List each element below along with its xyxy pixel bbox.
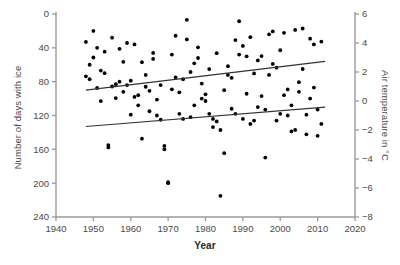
data-point: [267, 73, 271, 77]
x-axis-tick-label: 1980: [195, 223, 216, 234]
x-axis-tick-label: 1950: [83, 223, 104, 234]
data-point: [162, 147, 166, 151]
data-point: [144, 73, 148, 77]
data-point: [103, 71, 107, 75]
data-point: [312, 43, 316, 47]
data-point: [151, 51, 155, 55]
data-point: [256, 59, 260, 63]
data-point: [170, 53, 174, 57]
data-point: [99, 69, 103, 73]
y-axis-left-tick-label: 80: [38, 76, 49, 87]
data-point: [91, 56, 95, 60]
y-axis-left-tick-label: 120: [33, 110, 49, 121]
data-point: [88, 77, 92, 81]
data-point: [177, 90, 181, 94]
data-point: [226, 64, 230, 68]
data-point: [215, 120, 219, 124]
y-axis-right-tick-label: 4: [362, 37, 367, 48]
y-axis-left-title: Number of days with ice: [12, 43, 23, 193]
data-point: [260, 94, 264, 98]
y-axis-right-tick-label: 6: [362, 8, 367, 19]
data-point: [133, 95, 137, 99]
data-point: [140, 137, 144, 141]
data-point: [219, 128, 223, 132]
data-point: [297, 80, 301, 84]
y-axis-left-tick-label: 200: [33, 178, 49, 189]
data-point: [91, 29, 95, 33]
data-point: [222, 151, 226, 155]
data-point: [290, 103, 294, 107]
data-point: [308, 97, 312, 101]
data-point: [106, 146, 110, 150]
data-point: [293, 28, 297, 32]
data-point: [121, 90, 125, 94]
y-axis-left-tick-label: 0: [44, 8, 49, 19]
data-point: [144, 85, 148, 89]
air-temperature-trend: [86, 107, 325, 126]
y-axis-left-tick-label: 240: [33, 211, 49, 222]
data-point: [196, 56, 200, 60]
data-point: [271, 30, 275, 34]
y-axis-right-tick-label: −4: [362, 153, 373, 164]
data-point: [263, 156, 267, 160]
data-point: [286, 88, 290, 92]
data-point: [245, 92, 249, 96]
data-point: [121, 60, 125, 64]
chart-figure: 040801201602002406420−2−4−6−819401950196…: [0, 0, 400, 265]
data-point: [222, 88, 226, 92]
data-point: [207, 112, 211, 116]
x-axis-tick-label: 1990: [232, 223, 253, 234]
data-point: [252, 72, 256, 76]
data-point: [140, 60, 144, 64]
data-point: [237, 53, 241, 57]
data-point: [155, 114, 159, 118]
data-point: [256, 105, 260, 109]
data-point: [185, 37, 189, 41]
data-point: [234, 38, 238, 42]
data-point: [84, 74, 88, 78]
data-point: [174, 34, 178, 38]
x-axis-tick-label: 2020: [344, 223, 365, 234]
data-point: [282, 93, 286, 97]
data-point: [189, 70, 193, 74]
data-point: [129, 79, 133, 83]
y-axis-right-tick-label: −8: [362, 211, 373, 222]
data-point: [278, 48, 282, 52]
data-point: [95, 46, 99, 50]
data-point: [230, 76, 234, 80]
data-point: [166, 180, 170, 184]
data-point: [308, 37, 312, 41]
data-point: [170, 87, 174, 91]
data-point: [230, 107, 234, 111]
data-point: [282, 31, 286, 35]
data-point: [319, 122, 323, 126]
data-point: [286, 114, 290, 118]
data-point: [241, 44, 245, 48]
data-point: [275, 119, 279, 123]
data-point: [215, 51, 219, 55]
data-point: [192, 103, 196, 107]
data-point: [110, 36, 114, 40]
data-point: [312, 86, 316, 90]
y-axis-right-title: Air temperature in °C: [380, 41, 391, 191]
y-axis-right-tick-label: −2: [362, 124, 373, 135]
data-point: [267, 32, 271, 36]
data-point: [133, 43, 137, 47]
data-point: [162, 144, 166, 148]
data-point: [125, 41, 129, 45]
data-point: [305, 113, 309, 117]
data-point: [84, 40, 88, 44]
data-points-group: [84, 18, 323, 198]
data-point: [159, 83, 163, 87]
data-point: [248, 35, 252, 39]
x-axis-tick-label: 1970: [158, 223, 179, 234]
data-point: [207, 67, 211, 71]
data-point: [211, 125, 215, 129]
data-point: [248, 122, 252, 126]
x-axis-title: Year: [55, 240, 355, 251]
y-axis-right-tick-label: 0: [362, 95, 367, 106]
y-axis-left-tick-label: 160: [33, 144, 49, 155]
data-point: [192, 61, 196, 65]
data-point: [278, 112, 282, 116]
data-point: [114, 96, 118, 100]
